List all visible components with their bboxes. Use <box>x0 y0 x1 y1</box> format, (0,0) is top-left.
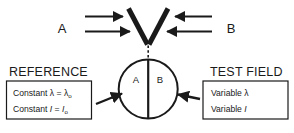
test-field-heading: TEST FIELD <box>210 65 283 79</box>
reference-line-2: Constant I = Io <box>13 104 68 115</box>
test-field-line-2: Variable I <box>211 104 247 114</box>
beam-label-b: B <box>227 21 236 36</box>
reference-line-1: Constant λ = λo <box>13 88 72 99</box>
diagram-canvas: A B A B REFERENCE Constant λ = λo Consta… <box>0 0 294 133</box>
beam-label-a: A <box>58 21 67 36</box>
wedge-arm-left <box>129 9 148 45</box>
reference-to-field-arrow <box>96 94 122 105</box>
optical-comparison-diagram: A B A B REFERENCE Constant λ = λo Consta… <box>0 0 294 133</box>
reference-heading: REFERENCE <box>9 65 88 79</box>
field-half-label-a: A <box>133 74 140 85</box>
field-half-label-b: B <box>157 74 163 85</box>
wedge-arm-right <box>149 9 168 45</box>
testfield-to-field-arrow <box>178 95 200 100</box>
test-field-line-1: Variable λ <box>211 88 249 98</box>
